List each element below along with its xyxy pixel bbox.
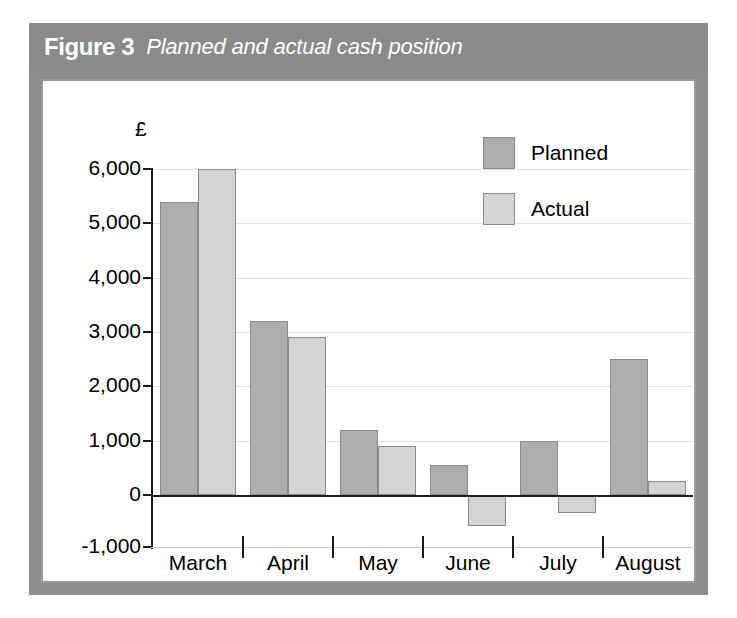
- y-axis-tick-label: 2,000: [53, 373, 141, 397]
- bar-july-planned: [520, 441, 558, 495]
- chart-plot-area: £ 6,0005,0004,0003,0002,0001,0000-1,000 …: [43, 81, 694, 581]
- y-axis-line: [151, 169, 153, 549]
- x-axis-label-june: June: [423, 551, 513, 575]
- bar-august-actual: [648, 481, 686, 495]
- x-axis-label-march: March: [153, 551, 243, 575]
- chart-legend: PlannedActual: [483, 136, 608, 248]
- x-axis-label-april: April: [243, 551, 333, 575]
- legend-item-planned: Planned: [483, 136, 608, 170]
- bar-may-planned: [340, 430, 378, 495]
- y-axis-tick-label: 4,000: [53, 265, 141, 289]
- actual-swatch: [483, 193, 515, 225]
- x-axis-label-may: May: [333, 551, 423, 575]
- legend-label-planned: Planned: [531, 141, 608, 165]
- bar-april-planned: [250, 321, 288, 495]
- bar-may-actual: [378, 446, 416, 495]
- bar-april-actual: [288, 337, 326, 495]
- y-axis-tick-label: -1,000: [53, 534, 141, 558]
- bar-july-actual: [558, 495, 596, 513]
- y-axis-tick-label: 6,000: [53, 156, 141, 180]
- x-axis-label-august: August: [603, 551, 693, 575]
- bar-march-actual: [198, 169, 236, 495]
- figure-caption: Planned and actual cash position: [146, 34, 463, 60]
- figure-frame: Figure 3 Planned and actual cash positio…: [29, 23, 708, 595]
- legend-item-actual: Actual: [483, 192, 608, 226]
- y-axis-tick-label: 1,000: [53, 428, 141, 452]
- bar-june-planned: [430, 465, 468, 495]
- planned-swatch: [483, 137, 515, 169]
- y-axis-tick-label: 0: [53, 482, 141, 506]
- bar-june-actual: [468, 495, 506, 526]
- bar-march-planned: [160, 202, 198, 495]
- figure-title-band: Figure 3 Planned and actual cash positio…: [29, 23, 708, 71]
- y-axis-tick-label: 3,000: [53, 319, 141, 343]
- x-axis-label-july: July: [513, 551, 603, 575]
- figure-number-label: Figure 3: [44, 33, 134, 61]
- zero-line: [151, 495, 693, 497]
- chart-panel: £ 6,0005,0004,0003,0002,0001,0000-1,000 …: [41, 79, 696, 583]
- y-axis-tick-label: 5,000: [53, 210, 141, 234]
- legend-label-actual: Actual: [531, 197, 589, 221]
- bar-august-planned: [610, 359, 648, 495]
- y-axis-unit-symbol: £: [135, 117, 147, 141]
